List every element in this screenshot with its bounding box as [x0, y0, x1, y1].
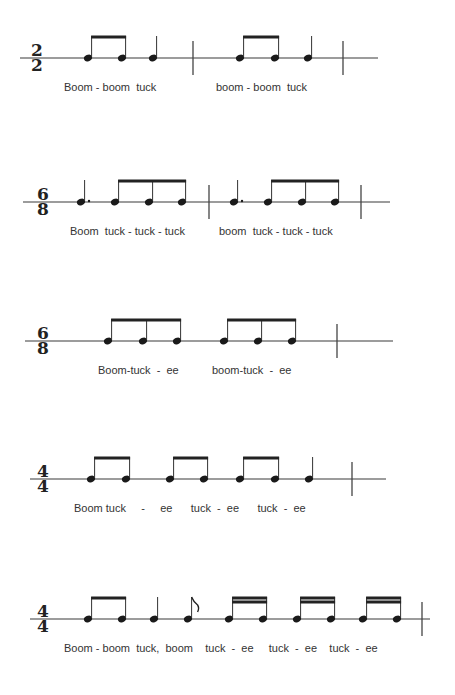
time-signature: 22: [31, 40, 43, 75]
note-quarter: [304, 457, 314, 484]
augmentation-dot: [241, 200, 243, 202]
note-quarter: [148, 36, 158, 63]
lyric-syllables: Boom tuck - tuck - tuck: [70, 225, 185, 237]
lyric-syllables: boom-tuck - ee: [212, 364, 291, 376]
note-eighth: [83, 597, 93, 624]
note-eighth: [117, 36, 127, 63]
note-eighth: [103, 319, 113, 346]
time-signature-bottom: 2: [31, 55, 43, 75]
time-signature-bottom: 8: [37, 199, 49, 219]
note-eighth: [177, 180, 187, 207]
note-eighth: [199, 457, 209, 484]
note-quarter: [303, 36, 313, 63]
rhythm-system: 68Boom-tuck - eeboom-tuck - ee: [25, 319, 393, 376]
lyric-syllables: Boom - boom tuck, boom tuck - ee tuck - …: [64, 642, 378, 654]
note-eighth: [263, 180, 273, 207]
note-eighth: [235, 36, 245, 63]
note-eighth: [287, 319, 297, 346]
note-dotted-quarter: [229, 180, 243, 207]
lyric-syllables: Boom - boom tuck: [64, 81, 157, 93]
time-signature-bottom: 4: [37, 616, 49, 636]
augmentation-dot: [88, 200, 90, 202]
time-signature: 44: [37, 461, 49, 496]
rhythm-system: 44Boom tuck - ee tuck - ee tuck - ee: [30, 457, 386, 514]
note-eighth: [253, 319, 263, 346]
note-eighth: [144, 180, 154, 207]
rhythm-system: 68Boom tuck - tuck - tuckboom tuck - tuc…: [23, 180, 390, 237]
lyric-syllables: Boom tuck - ee tuck - ee tuck - ee: [74, 502, 306, 514]
note-eighth: [110, 180, 120, 207]
note-eighth: [219, 319, 229, 346]
rhythm-system: 44Boom - boom tuck, boom tuck - ee tuck …: [30, 597, 430, 654]
note-quarter: [149, 597, 159, 624]
rhythm-score-page: 22Boom - boom tuckboom - boom tuck68Boom…: [0, 0, 455, 695]
note-dotted-quarter: [76, 180, 90, 207]
note-eighth: [172, 319, 182, 346]
lyric-syllables: Boom-tuck - ee: [98, 364, 179, 376]
note-eighth: [235, 457, 245, 484]
note-eighth: [297, 180, 307, 207]
note-eighth: [83, 36, 93, 63]
note-eighth: [117, 597, 127, 624]
lyric-syllables: boom - boom tuck: [216, 81, 308, 93]
time-signature: 68: [37, 323, 49, 358]
note-eighth: [165, 457, 175, 484]
lyric-syllables: boom tuck - tuck - tuck: [219, 225, 333, 237]
time-signature: 68: [37, 184, 49, 219]
rhythm-system: 22Boom - boom tuckboom - boom tuck: [20, 36, 378, 93]
note-eighth-flag: [183, 597, 199, 624]
time-signature: 44: [37, 601, 49, 636]
note-eighth: [330, 180, 340, 207]
eighth-flag: [192, 597, 199, 612]
note-eighth: [270, 36, 280, 63]
note-eighth: [138, 319, 148, 346]
time-signature-bottom: 4: [37, 476, 49, 496]
note-eighth: [270, 457, 280, 484]
note-eighth: [121, 457, 131, 484]
note-eighth: [86, 457, 96, 484]
time-signature-bottom: 8: [37, 338, 49, 358]
